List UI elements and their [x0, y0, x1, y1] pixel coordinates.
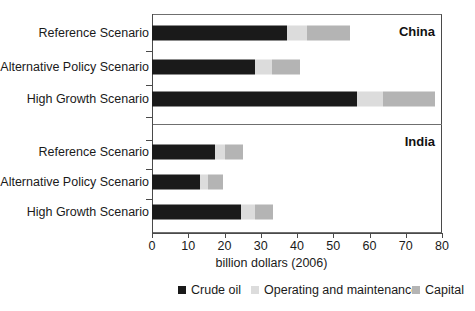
- x-tick: [370, 233, 371, 238]
- category-label-china-reference: Reference Scenario: [39, 26, 149, 40]
- y-tick: [146, 140, 152, 141]
- bar-china-high-growth: [152, 92, 435, 107]
- x-tick: [333, 233, 334, 238]
- x-axis-title-text: billion dollars (2006): [216, 256, 328, 270]
- y-tick: [146, 199, 152, 200]
- legend-label: Capital: [425, 283, 464, 297]
- legend-label: Operating and maintenance: [264, 283, 418, 297]
- x-tick: [188, 233, 189, 238]
- category-label-india-alternative: Alternative Policy Scenario: [0, 175, 149, 189]
- segment-crude-oil: [152, 60, 255, 75]
- stacked-bar-chart: China India Reference Scenario Alternati…: [0, 0, 475, 311]
- x-tick-label: 10: [181, 239, 195, 253]
- x-tick: [442, 233, 443, 238]
- x-tick-label: 0: [149, 239, 156, 253]
- x-tick: [406, 233, 407, 238]
- legend-item-capital[interactable]: Capital: [412, 283, 464, 297]
- segment-operating-maintenance: [241, 205, 255, 220]
- bar-india-high-growth: [152, 205, 273, 220]
- legend-item-operating-maintenance[interactable]: Operating and maintenance: [251, 283, 418, 297]
- segment-crude-oil: [152, 92, 357, 107]
- segment-capital: [208, 175, 223, 190]
- category-label-india-reference: Reference Scenario: [39, 145, 149, 159]
- x-tick-label: 80: [435, 239, 449, 253]
- legend-item-crude-oil[interactable]: Crude oil: [178, 283, 241, 297]
- x-tick: [261, 233, 262, 238]
- panel-label-china: China: [399, 24, 435, 39]
- bar-india-reference: [152, 145, 243, 160]
- chart-legend: Crude oil Operating and maintenance Capi…: [0, 283, 475, 301]
- segment-crude-oil: [152, 145, 215, 160]
- segment-crude-oil: [152, 26, 287, 41]
- x-tick: [297, 233, 298, 238]
- y-tick: [146, 169, 152, 170]
- segment-crude-oil: [152, 175, 200, 190]
- segment-capital: [225, 145, 243, 160]
- category-label-china-high-growth: High Growth Scenario: [27, 92, 149, 106]
- x-tick-label: 70: [399, 239, 413, 253]
- y-axis-line: [152, 14, 153, 234]
- y-tick: [146, 51, 152, 52]
- segment-operating-maintenance: [287, 26, 307, 41]
- x-axis-title: billion dollars (2006): [0, 256, 475, 270]
- segment-crude-oil: [152, 205, 241, 220]
- x-tick: [152, 233, 153, 238]
- x-tick-label: 50: [326, 239, 340, 253]
- bar-india-alternative-policy: [152, 175, 223, 190]
- panel-label-india: India: [405, 134, 435, 149]
- segment-capital: [272, 60, 300, 75]
- legend-swatch-icon: [251, 286, 259, 294]
- x-tick-label: 20: [218, 239, 232, 253]
- x-tick-label: 40: [290, 239, 304, 253]
- x-tick-label: 60: [363, 239, 377, 253]
- y-tick: [146, 85, 152, 86]
- bar-china-alternative-policy: [152, 60, 300, 75]
- x-tick: [225, 233, 226, 238]
- segment-capital: [255, 205, 273, 220]
- segment-operating-maintenance: [255, 60, 272, 75]
- segment-capital: [383, 92, 435, 107]
- bar-china-reference: [152, 26, 350, 41]
- legend-swatch-icon: [178, 286, 186, 294]
- x-tick-label: 30: [254, 239, 268, 253]
- category-label-india-high-growth: High Growth Scenario: [27, 205, 149, 219]
- segment-operating-maintenance: [357, 92, 383, 107]
- segment-operating-maintenance: [215, 145, 225, 160]
- legend-swatch-icon: [412, 286, 420, 294]
- category-label-china-alternative: Alternative Policy Scenario: [0, 60, 149, 74]
- legend-label: Crude oil: [191, 283, 241, 297]
- y-tick: [146, 117, 152, 118]
- panel-divider: [152, 124, 442, 125]
- segment-capital: [307, 26, 350, 41]
- segment-operating-maintenance: [200, 175, 208, 190]
